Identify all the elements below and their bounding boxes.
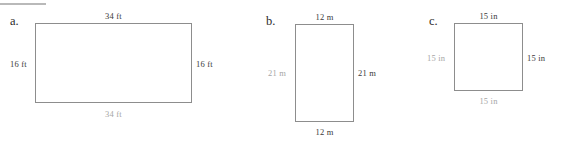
dimension-label-c-right: 15 in [527, 54, 545, 63]
figure-sheet: a. 34 ft 16 ft 16 ft 34 ft b. 12 m 21 m … [0, 0, 561, 141]
figure-c: c. 15 in 15 in 15 in 15 in [390, 0, 561, 141]
dimension-label-a-bottom: 34 ft [35, 110, 192, 119]
dimension-label-a-left: 16 ft [10, 60, 27, 69]
part-letter-a: a. [10, 15, 19, 28]
figure-b: b. 12 m 21 m 21 m 12 m [230, 0, 390, 141]
part-letter-c: c. [429, 15, 438, 28]
square-c-outline [454, 23, 523, 91]
dimension-label-b-top: 12 m [295, 13, 354, 22]
dimension-label-a-right: 16 ft [196, 60, 213, 69]
rectangle-b-outline [295, 24, 354, 122]
rectangle-a-outline [35, 23, 192, 103]
dimension-label-b-left: 21 m [268, 69, 286, 78]
figure-a: a. 34 ft 16 ft 16 ft 34 ft [0, 0, 230, 141]
dimension-label-c-left: 15 in [427, 54, 445, 63]
dimension-label-a-top: 34 ft [35, 12, 192, 21]
dimension-label-c-bottom: 15 in [454, 97, 523, 106]
dimension-label-c-top: 15 in [454, 12, 523, 21]
part-letter-b: b. [266, 15, 275, 28]
dimension-label-b-right: 21 m [358, 69, 376, 78]
dimension-label-b-bottom: 12 m [295, 128, 354, 137]
